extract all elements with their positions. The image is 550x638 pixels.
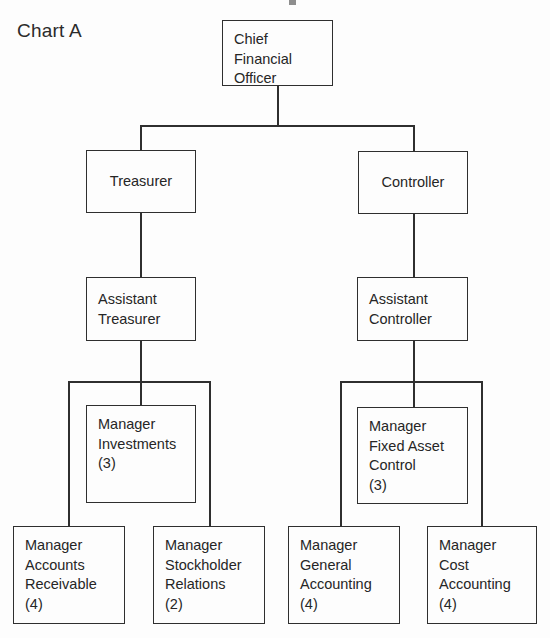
cropped-title-fragment (289, 0, 296, 5)
node-manager-fixed-asset-control[interactable]: Manager Fixed Asset Control (3) (357, 407, 468, 504)
chart-label: Chart A (17, 20, 82, 42)
connector-asst-controller-stem (413, 341, 415, 383)
node-label-manager-general-accounting: Manager General Accounting (4) (300, 536, 395, 614)
connector-cfo-stem (277, 86, 279, 127)
node-label-chief-financial-officer: Chief Financial Officer (234, 30, 328, 89)
node-manager-investments[interactable]: Manager Investments (3) (86, 405, 196, 503)
connector-level2-bar (140, 125, 415, 127)
node-manager-cost-accounting[interactable]: Manager Cost Accounting (4) (427, 526, 537, 624)
node-manager-general-accounting[interactable]: Manager General Accounting (4) (288, 526, 400, 624)
node-label-manager-cost-accounting: Manager Cost Accounting (4) (439, 536, 532, 614)
org-chart-canvas: Chart A Chief Financial Officer Treasure… (0, 0, 550, 638)
node-label-manager-fixed-asset-control: Manager Fixed Asset Control (3) (369, 417, 463, 495)
node-label-controller: Controller (359, 173, 467, 193)
node-label-manager-accounts-receivable: Manager Accounts Receivable (4) (25, 536, 120, 614)
node-controller[interactable]: Controller (358, 151, 468, 214)
node-assistant-treasurer[interactable]: Assistant Treasurer (86, 277, 196, 341)
connector-to-controller (413, 125, 415, 152)
connector-to-manager-investments (140, 381, 142, 406)
node-treasurer[interactable]: Treasurer (86, 150, 196, 213)
node-label-assistant-controller: Assistant Controller (369, 290, 463, 329)
connector-to-treasurer (140, 125, 142, 151)
node-manager-stockholder-relations[interactable]: Manager Stockholder Relations (2) (153, 526, 265, 624)
connector-to-manager-fixed-asset (413, 381, 415, 408)
connector-treasurer-to-assistant (140, 213, 142, 277)
node-manager-accounts-receivable[interactable]: Manager Accounts Receivable (4) (13, 526, 125, 624)
node-chief-financial-officer[interactable]: Chief Financial Officer (222, 20, 333, 86)
node-label-treasurer: Treasurer (87, 172, 195, 192)
node-label-assistant-treasurer: Assistant Treasurer (98, 290, 191, 329)
node-assistant-controller[interactable]: Assistant Controller (357, 277, 468, 341)
node-label-manager-stockholder-relations: Manager Stockholder Relations (2) (165, 536, 260, 614)
node-label-manager-investments: Manager Investments (3) (98, 415, 191, 474)
connector-controller-to-assistant (413, 214, 415, 277)
connector-asst-treasurer-stem (140, 341, 142, 383)
